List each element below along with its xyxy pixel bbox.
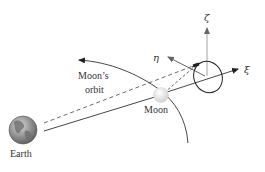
- zeta-label: ζ: [204, 12, 210, 23]
- moon-satellite-dashed-line: [164, 67, 194, 93]
- xi-label: ξ: [244, 64, 250, 75]
- earth-globe-icon: [9, 116, 37, 144]
- halo-orbit-ellipse: [189, 57, 228, 98]
- earth-label: Earth: [10, 148, 32, 159]
- earth-moon-diagram: Earth Moon Moon’s orbit ξ η ζ: [0, 0, 265, 172]
- moon-sphere: [154, 88, 169, 103]
- moon-label: Moon: [144, 104, 168, 115]
- orbit-label-line1: Moon’s: [78, 70, 109, 81]
- earth-moon-line: [44, 96, 158, 131]
- earth-satellite-dashed-line: [44, 66, 193, 123]
- orbit-label-line2: orbit: [85, 84, 104, 95]
- eta-label: η: [153, 52, 159, 63]
